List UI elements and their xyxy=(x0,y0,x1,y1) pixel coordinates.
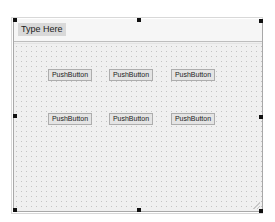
designer-form[interactable]: Type Here PushButton PushButton PushButt… xyxy=(13,19,263,212)
push-button-1[interactable]: PushButton xyxy=(48,69,92,81)
push-button-5[interactable]: PushButton xyxy=(109,113,153,125)
push-button-6[interactable]: PushButton xyxy=(171,113,215,125)
resize-handle-middle-left[interactable] xyxy=(13,114,17,118)
resize-handle-bottom-right[interactable] xyxy=(259,209,263,213)
resize-handle-bottom-middle[interactable] xyxy=(137,208,141,212)
resize-handle-top-middle[interactable] xyxy=(137,18,141,22)
push-button-2[interactable]: PushButton xyxy=(109,69,153,81)
resize-handle-bottom-left[interactable] xyxy=(13,208,17,212)
push-button-4[interactable]: PushButton xyxy=(48,113,92,125)
menu-type-here[interactable]: Type Here xyxy=(18,23,66,36)
size-grip-icon[interactable] xyxy=(253,202,260,209)
push-button-3[interactable]: PushButton xyxy=(171,69,215,81)
resize-handle-top-left[interactable] xyxy=(13,18,17,22)
resize-handle-top-right[interactable] xyxy=(259,19,263,23)
resize-handle-middle-right[interactable] xyxy=(259,115,263,119)
menu-bar[interactable]: Type Here xyxy=(14,19,262,42)
